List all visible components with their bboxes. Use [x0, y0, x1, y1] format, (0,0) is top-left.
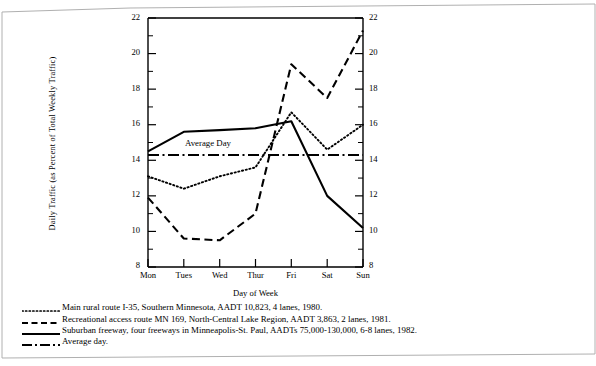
y-tick-label-right: 14: [369, 154, 389, 164]
y-tick-label-right: 10: [369, 225, 389, 235]
series-recreational-access-route: [148, 30, 363, 240]
chart-figure: 22 20 18 16 14 12 10 8 22 20 18 16 14 12…: [0, 0, 596, 366]
legend-key-solid-icon: [22, 325, 62, 336]
legend-item-average-day: Average day.: [22, 336, 582, 347]
legend-item-main-rural-route: Main rural route I-35, Southern Minnesot…: [22, 302, 582, 313]
y-tick-label: 8: [120, 260, 140, 270]
y-tick-label: 10: [120, 225, 140, 235]
x-tick-label-sun: Sun: [340, 270, 386, 280]
y-tick-label: 16: [120, 118, 140, 128]
series-suburban-freeway: [148, 121, 363, 228]
series-main-rural-route: [148, 112, 363, 188]
y-axis-minor-ticks-right: [358, 36, 363, 249]
x-axis-title: Day of Week: [148, 288, 363, 298]
legend-label: Average day.: [62, 336, 108, 347]
y-tick-label-right: 20: [369, 47, 389, 57]
page-canvas: 22 20 18 16 14 12 10 8 22 20 18 16 14 12…: [0, 0, 596, 366]
legend-key-dotted-icon: [22, 302, 62, 313]
y-tick-label-right: 18: [369, 83, 389, 93]
average-day-annotation: Average Day: [184, 138, 232, 148]
y-tick-label: 12: [120, 189, 140, 199]
y-tick-label: 22: [120, 12, 140, 22]
y-tick-label: 18: [120, 83, 140, 93]
axis-frame: [148, 18, 363, 267]
y-axis-minor-ticks-left: [148, 36, 153, 249]
legend-label: Main rural route I-35, Southern Minnesot…: [62, 302, 322, 313]
legend-item-suburban-freeway: Suburban freeway, four freeways in Minne…: [22, 325, 582, 336]
legend-label: Recreational access route MN 169, North-…: [62, 314, 391, 325]
y-tick-label-right: 16: [369, 118, 389, 128]
y-tick-label: 20: [120, 47, 140, 57]
legend-label: Suburban freeway, four freeways in Minne…: [62, 325, 417, 336]
y-axis-title: Daily Traffic (as Percent of Total Weekl…: [48, 19, 57, 269]
chart-legend: Main rural route I-35, Southern Minnesot…: [22, 302, 582, 348]
y-tick-label-right: 8: [369, 260, 389, 270]
chart-plot-area: [0, 0, 596, 300]
y-tick-label-right: 22: [369, 12, 389, 22]
legend-item-recreational-access-route: Recreational access route MN 169, North-…: [22, 313, 582, 324]
y-tick-label: 14: [120, 154, 140, 164]
legend-key-dash-dot-icon: [22, 336, 62, 347]
y-tick-label-right: 12: [369, 189, 389, 199]
x-axis-ticks: [148, 259, 363, 267]
legend-key-dashed-icon: [22, 314, 62, 325]
